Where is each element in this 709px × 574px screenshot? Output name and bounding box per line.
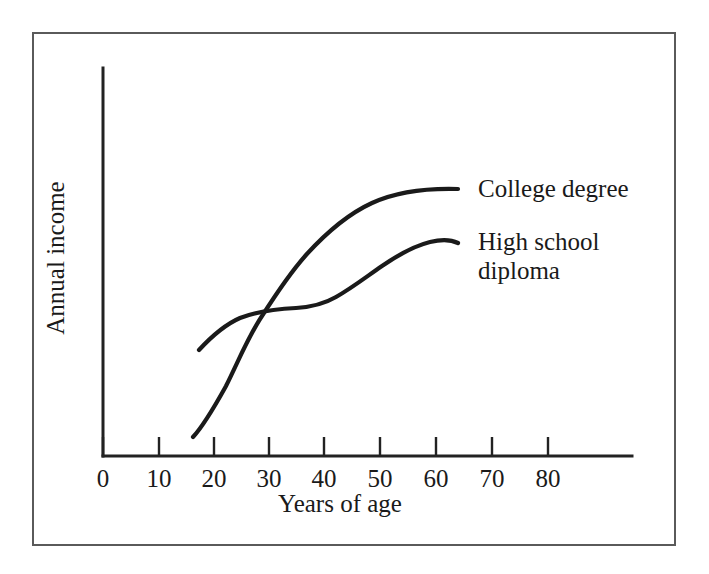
y-axis-title: Annual income — [42, 181, 70, 334]
x-tick-label-20: 20 — [202, 466, 227, 491]
legend-label-college-degree: College degree — [478, 175, 629, 204]
x-tick-label-30: 30 — [257, 466, 282, 491]
x-axis-title: Years of age — [278, 490, 402, 518]
x-tick-label-0: 0 — [97, 466, 110, 491]
x-axis-ticks — [103, 437, 548, 456]
x-tick-label-60: 60 — [424, 466, 449, 491]
x-tick-label-80: 80 — [536, 466, 561, 491]
x-tick-label-40: 40 — [312, 466, 337, 491]
series-line-high-school-diploma — [199, 240, 458, 350]
x-tick-label-50: 50 — [368, 466, 393, 491]
x-tick-label-70: 70 — [480, 466, 505, 491]
series-line-college-degree — [193, 189, 458, 437]
legend-label-high-school-diploma: High school diploma — [478, 228, 600, 285]
x-tick-label-10: 10 — [147, 466, 172, 491]
figure-root: 0 10 20 30 40 50 60 70 80 Years of age A… — [0, 0, 709, 574]
